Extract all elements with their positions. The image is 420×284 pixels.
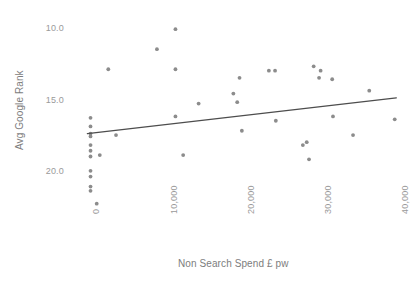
data-point: [89, 135, 93, 139]
data-point: [89, 125, 93, 129]
data-point: [305, 140, 309, 144]
data-point: [98, 153, 102, 157]
data-point: [312, 64, 316, 68]
data-point: [174, 27, 178, 31]
x-tick-label: 40,000: [400, 185, 410, 214]
data-points-group: [89, 27, 397, 205]
data-point: [89, 116, 93, 120]
data-point: [367, 89, 371, 93]
data-point: [89, 169, 93, 173]
data-point: [238, 76, 242, 80]
data-point: [114, 133, 118, 137]
data-point: [89, 189, 93, 193]
data-point: [317, 76, 321, 80]
data-point: [273, 69, 277, 73]
x-axis-title: Non Search Spend £ pw: [178, 258, 289, 269]
x-tick-label: 30,000: [323, 185, 333, 214]
y-tick-label: 10.0: [36, 23, 64, 33]
data-point: [330, 77, 334, 81]
data-point: [301, 143, 305, 147]
data-point: [235, 100, 239, 104]
data-point: [174, 115, 178, 119]
data-point: [174, 67, 178, 71]
data-point: [331, 115, 335, 119]
scatter-chart: 10.015.020.0 010,00020,00030,00040,000 A…: [0, 0, 420, 284]
trendline: [87, 98, 396, 134]
plot-canvas: [0, 0, 420, 284]
data-point: [89, 155, 93, 159]
data-point: [106, 67, 110, 71]
y-tick-label: 15.0: [36, 95, 64, 105]
data-point: [89, 143, 93, 147]
data-point: [197, 102, 201, 106]
x-tick-label: 10,000: [169, 185, 179, 214]
y-tick-label: 20.0: [36, 166, 64, 176]
data-point: [181, 153, 185, 157]
data-point: [231, 92, 235, 96]
x-tick-label: 0: [91, 209, 101, 214]
data-point: [319, 69, 323, 73]
data-point: [267, 69, 271, 73]
data-point: [155, 47, 159, 51]
data-point: [393, 117, 397, 121]
data-point: [89, 185, 93, 189]
data-point: [89, 149, 93, 153]
data-point: [307, 157, 311, 161]
x-tick-label: 20,000: [246, 185, 256, 214]
data-point: [274, 119, 278, 123]
data-point: [351, 133, 355, 137]
data-point: [95, 202, 99, 206]
data-point: [240, 129, 244, 133]
data-point: [89, 175, 93, 179]
y-axis-title: Avg Google Rank: [14, 70, 25, 150]
